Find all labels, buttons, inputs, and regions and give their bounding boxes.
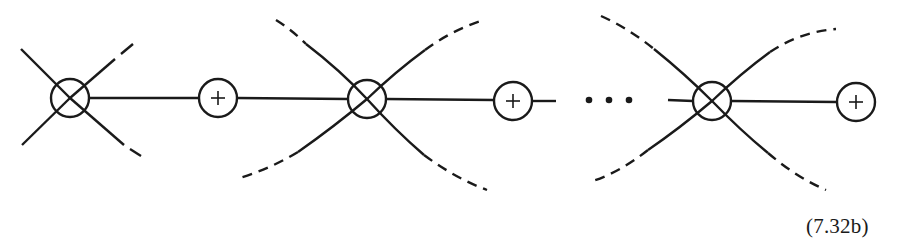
vertex-2-curve-lower-right-solid: [367, 99, 424, 155]
propagator-3: [386, 99, 494, 100]
vertex-2-curve-lower-left-solid: [298, 99, 367, 152]
feynman-chain-diagram: [0, 0, 897, 250]
plus-2-group: [494, 82, 532, 120]
propagator-2: [237, 98, 348, 99]
propagator-5-stub: [668, 100, 693, 101]
vertex-2-group: [236, 20, 487, 190]
vertex-2-curve-upper-left-solid: [306, 44, 367, 99]
plus-3-group: [837, 83, 875, 121]
vertex-2-curve-lower-left-dashed: [236, 152, 298, 179]
vertex-2-curve-upper-right-solid: [367, 50, 425, 99]
equation-label: (7.32b): [806, 214, 869, 239]
ellipsis-dots-icon: [586, 97, 633, 104]
vertex-3-curve-upper-left-solid: [654, 49, 712, 101]
plus-1-group: [199, 79, 237, 117]
vertex-1-dash-upper-right: [121, 44, 133, 54]
vertex-3-curve-lower-right-dashed: [768, 153, 826, 190]
propagator-6: [731, 101, 837, 102]
vertex-3-curve-upper-right-dashed: [770, 29, 836, 52]
vertex-1-group: [21, 44, 141, 156]
vertex-3-curve-lower-right-solid: [712, 101, 768, 153]
vertex-2-curve-lower-right-dashed: [424, 155, 487, 190]
vertex-1-circle-icon: [51, 79, 89, 117]
vertex-2-curve-upper-left-dashed: [276, 20, 306, 44]
vertex-3-curve-lower-left-dashed: [593, 150, 648, 181]
vertex-3-curve-lower-left-solid: [648, 101, 712, 150]
vertex-3-curve-upper-left-dashed: [601, 16, 654, 49]
vertex-3-curve-upper-right-solid: [712, 52, 770, 101]
vertex-2-curve-upper-right-dashed: [425, 20, 484, 50]
vertex-1-dash-lower-right: [130, 149, 141, 156]
